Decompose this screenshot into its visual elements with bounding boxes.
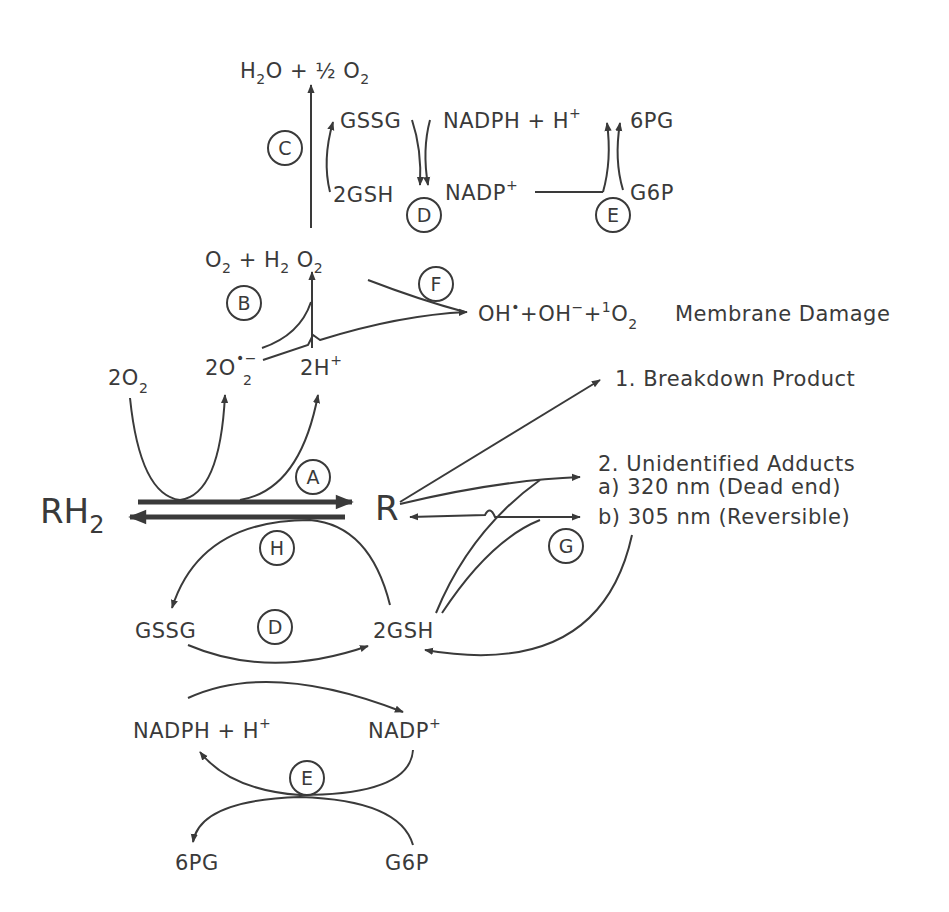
- gsh-adduct-line-1: [436, 480, 540, 613]
- gsh-bottom: 2GSH: [373, 619, 434, 643]
- nadp-top: NADP+: [445, 177, 518, 205]
- e-arrow-right: [618, 123, 623, 190]
- two-o2: 2O2: [108, 366, 148, 396]
- e-arrow-left: [603, 123, 609, 192]
- d-arrow-left: [412, 120, 420, 185]
- enzyme-f-label: F: [431, 273, 442, 295]
- radical-arrow: [263, 312, 467, 360]
- superoxide-curve: [262, 302, 311, 348]
- adduct-b: b) 305 nm (Reversible): [598, 505, 850, 529]
- bottom-cycle: GSSG D 2GSH NADPH + H+ NADP+ E 6PG G6P: [133, 610, 441, 875]
- main-reaction: RH2 R A H 1. Breakdown Product 2. Uniden…: [40, 367, 855, 655]
- enzyme-h-label: H: [270, 537, 284, 559]
- nadp-bottom: NADP+: [368, 715, 441, 743]
- enzyme-d-label-bottom: D: [268, 616, 283, 638]
- enzyme-b-label: B: [237, 292, 250, 314]
- breakdown-product: 1. Breakdown Product: [615, 367, 855, 391]
- adduct-a: a) 320 nm (Dead end): [598, 475, 841, 499]
- o2-to-superoxide-arrow: [130, 395, 225, 500]
- gssg-top: GSSG: [340, 109, 401, 133]
- 6pg-bottom: 6PG: [175, 851, 219, 875]
- enzyme-d-label-top: D: [417, 204, 432, 226]
- superoxide: 2O•−2: [205, 350, 257, 388]
- rh2-label: RH2: [40, 491, 104, 539]
- gsh-to-gssg-arrow: [327, 122, 333, 192]
- enzyme-g-label: G: [559, 535, 574, 557]
- reversible-arrow: [410, 510, 580, 517]
- dead-end-arrow: [400, 477, 580, 504]
- water-oxygen-product: H2O + ½ O2: [240, 59, 370, 87]
- two-protons: 2H+: [300, 352, 342, 380]
- enzyme-c-label: C: [278, 137, 291, 159]
- o2-h2o2: O2 + H2 O2: [205, 248, 323, 276]
- g6p-bottom: G6P: [385, 851, 429, 875]
- r-label: R: [375, 488, 399, 528]
- d-arrow-right: [425, 120, 430, 185]
- f-arrow: [368, 280, 465, 312]
- adducts-title: 2. Unidentified Adducts: [598, 452, 855, 476]
- gssg-to-gsh-arrow: [188, 645, 368, 663]
- glutathione-redox-pathway-diagram: H2O + ½ O2 C GSSG 2GSH D NADPH + H+ NADP…: [0, 0, 949, 912]
- enzyme-e-label-bottom: E: [301, 767, 313, 789]
- membrane-damage-label: Membrane Damage: [675, 302, 890, 326]
- gsh-adduct-line-2: [442, 520, 540, 613]
- g6p-to-6pg-arrow: [193, 797, 413, 845]
- 6pg-top: 6PG: [630, 109, 674, 133]
- nadph-top: NADPH + H+: [443, 105, 581, 133]
- nadph-to-nadp-arrow: [188, 682, 403, 712]
- enzyme-a-label: A: [307, 466, 320, 488]
- enzyme-e-label-top: E: [607, 204, 619, 226]
- g6p-top: G6P: [630, 181, 674, 205]
- top-cycle: H2O + ½ O2 C GSSG 2GSH D NADPH + H+ NADP…: [240, 59, 674, 232]
- gssg-bottom: GSSG: [135, 619, 196, 643]
- reversible-return-arrow: [425, 535, 632, 655]
- gsh-top: 2GSH: [333, 183, 394, 207]
- nadph-bottom: NADPH + H+: [133, 715, 271, 743]
- radical-products: OH•+OH−+1O2: [478, 299, 638, 332]
